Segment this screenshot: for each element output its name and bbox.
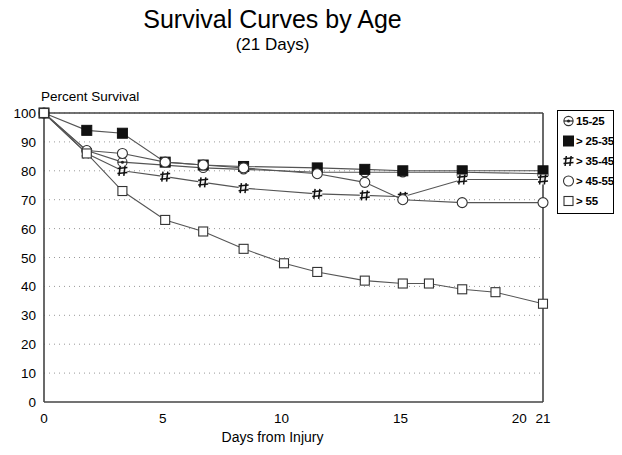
svg-text:21: 21 (535, 411, 550, 426)
data-point (538, 198, 548, 208)
legend-label: > 45-55 (576, 175, 614, 187)
data-point (117, 166, 127, 176)
legend-item: > 45-55 (558, 171, 613, 191)
data-point (457, 166, 467, 176)
svg-text:70: 70 (21, 193, 36, 208)
svg-text:20: 20 (512, 411, 527, 426)
data-point (117, 128, 127, 138)
data-point (538, 166, 548, 176)
data-point (117, 148, 127, 158)
legend-label: > 35-45 (576, 155, 614, 167)
data-point (360, 276, 369, 285)
data-point (161, 215, 170, 224)
data-series (39, 108, 548, 208)
svg-text:80: 80 (21, 164, 36, 179)
data-series-layer (39, 108, 548, 308)
legend-item: > 25-35 (558, 131, 613, 151)
data-point (239, 163, 249, 173)
plot-area: 0102030405060708090100 0510152021 (0, 0, 622, 455)
data-point (312, 169, 322, 179)
svg-text:15: 15 (393, 411, 408, 426)
data-point (398, 166, 408, 176)
data-point (457, 174, 467, 184)
data-point (398, 279, 407, 288)
data-point (82, 125, 92, 135)
data-point (198, 160, 208, 170)
data-point (198, 177, 208, 187)
data-point (280, 259, 289, 268)
data-point (118, 187, 127, 196)
legend-marker-open-square-icon (561, 191, 576, 211)
svg-text:90: 90 (21, 135, 36, 150)
svg-text:50: 50 (21, 251, 36, 266)
legend-item: 15-25 (558, 111, 613, 131)
svg-text:10: 10 (21, 366, 36, 381)
svg-text:20: 20 (21, 337, 36, 352)
x-axis-ticks: 0510152021 (40, 411, 550, 426)
data-point (239, 244, 248, 253)
legend-label: 15-25 (576, 115, 604, 127)
data-point (239, 183, 249, 193)
data-point (539, 299, 548, 308)
data-point (160, 172, 170, 182)
data-point (160, 157, 170, 167)
legend-marker-circle-dot-icon (561, 111, 576, 131)
data-point (424, 279, 433, 288)
legend-marker-hash-icon (561, 151, 576, 171)
data-point (40, 109, 49, 118)
svg-text:60: 60 (21, 222, 36, 237)
data-point (360, 177, 370, 187)
y-axis-ticks: 0102030405060708090100 (13, 106, 36, 410)
x-axis-label: Days from Injury (0, 429, 545, 445)
data-point (398, 195, 408, 205)
data-point (538, 174, 548, 184)
svg-text:30: 30 (21, 308, 36, 323)
data-point (82, 149, 91, 158)
svg-text:5: 5 (159, 411, 167, 426)
chart-page: Survival Curves by Age (21 Days) Percent… (0, 0, 622, 455)
data-series (39, 108, 548, 176)
data-point (360, 190, 370, 200)
legend-label: > 55 (576, 195, 598, 207)
legend-label: > 25-35 (576, 135, 614, 147)
data-point (360, 164, 370, 174)
data-point (313, 267, 322, 276)
legend-item: > 55 (558, 191, 613, 211)
data-point (312, 189, 322, 199)
legend-marker-filled-square-icon (561, 131, 576, 151)
data-point (457, 198, 467, 208)
svg-text:40: 40 (21, 279, 36, 294)
data-series (39, 108, 548, 202)
svg-text:0: 0 (40, 411, 48, 426)
legend-item: > 35-45 (558, 151, 613, 171)
legend: 15-25 > 25-35 > 35-45 > 45-55 > 55 (557, 110, 614, 214)
data-point (491, 288, 500, 297)
svg-text:10: 10 (274, 411, 289, 426)
legend-marker-open-circle-icon (561, 171, 576, 191)
data-point (458, 285, 467, 294)
data-point (199, 227, 208, 236)
svg-text:0: 0 (28, 395, 36, 410)
svg-text:100: 100 (13, 106, 36, 121)
data-series (40, 109, 548, 309)
